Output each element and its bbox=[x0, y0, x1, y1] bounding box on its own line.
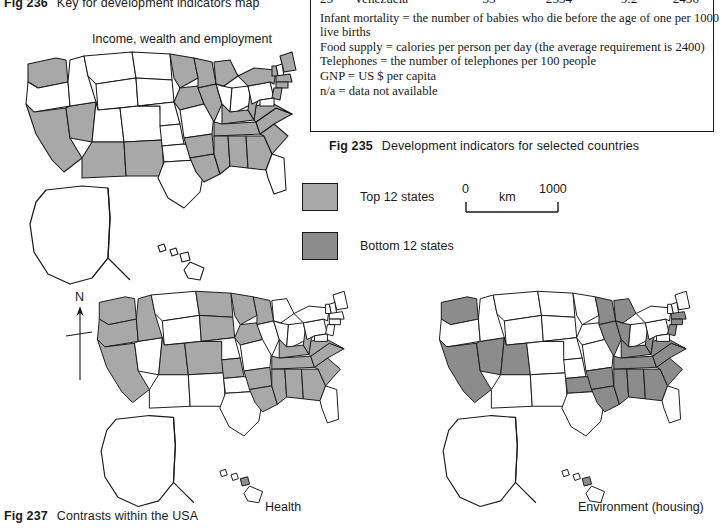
cell-telephones: 9.2 bbox=[598, 0, 660, 8]
state-newmexico bbox=[530, 373, 567, 406]
state-connecticut bbox=[671, 319, 682, 325]
state-hawaii-islands bbox=[562, 469, 605, 502]
state-massachusetts bbox=[671, 312, 686, 319]
fig235-number: Fig 235 bbox=[329, 139, 373, 153]
state-massachusetts bbox=[276, 74, 292, 82]
state-massachusetts bbox=[329, 312, 344, 319]
state-kansas bbox=[564, 358, 586, 378]
state-maryland bbox=[260, 98, 274, 106]
state-wisconsin bbox=[194, 58, 216, 88]
state-alaska-panhandle bbox=[515, 417, 535, 502]
footnote-line: n/a = data not available bbox=[320, 84, 703, 99]
state-alabama bbox=[627, 369, 646, 399]
state-southdakota bbox=[541, 315, 576, 341]
table-footnotes: Infant mortality = the number of babies … bbox=[311, 8, 713, 99]
map-scale-bar: 0 1000 km bbox=[462, 182, 582, 216]
state-nevada bbox=[135, 338, 163, 375]
table-row: 25Venezuela3325349.22450 bbox=[311, 0, 713, 8]
state-maryland bbox=[314, 334, 327, 341]
state-southdakota bbox=[199, 315, 234, 341]
state-tennessee bbox=[272, 356, 315, 369]
fig237-caption: Fig 237Contrasts within the USA bbox=[4, 509, 198, 523]
state-oregon bbox=[26, 82, 70, 112]
footnote-line: Telephones = the number of telephones pe… bbox=[320, 54, 703, 69]
state-northdakota bbox=[538, 291, 575, 317]
state-tennessee bbox=[614, 356, 657, 369]
fig235-caption: Fig 235Development indicators for select… bbox=[329, 139, 639, 153]
state-hawaii-islands bbox=[220, 469, 263, 502]
state-kansas bbox=[222, 358, 244, 378]
choropleth-map-income bbox=[8, 42, 304, 290]
state-tennessee bbox=[214, 122, 260, 136]
state-michigan bbox=[214, 60, 238, 86]
state-southdakota bbox=[136, 78, 174, 106]
cell-rank: 25 bbox=[311, 0, 354, 8]
fig236-number: Fig 236 bbox=[4, 0, 48, 10]
state-hawaii-islands bbox=[158, 244, 204, 280]
state-michigan bbox=[272, 299, 294, 323]
footnote-line: Food supply = calories per person per da… bbox=[320, 40, 703, 55]
legend-swatch-top bbox=[302, 183, 338, 211]
map-income-svg bbox=[8, 42, 304, 290]
footnote-line: live births bbox=[320, 25, 703, 40]
footnote-line: GNP = US $ per capita bbox=[320, 69, 703, 84]
choropleth-map-environment bbox=[404, 282, 716, 512]
scale-min-label: 0 bbox=[462, 182, 469, 196]
state-alabama bbox=[285, 369, 304, 399]
legend-label-top: Top 12 states bbox=[360, 190, 434, 204]
fig236-caption-text: Key for development indicators map bbox=[57, 0, 260, 10]
state-alaska-outline bbox=[443, 416, 517, 507]
state-northdakota bbox=[132, 52, 172, 80]
state-alaska-panhandle bbox=[173, 417, 193, 502]
state-nevada bbox=[477, 338, 505, 375]
cell-food-supply: 2534 bbox=[520, 0, 598, 8]
state-alabama bbox=[228, 136, 248, 168]
fig236-caption: Fig 236Key for development indicators ma… bbox=[4, 0, 260, 10]
legend-label-bottom: Bottom 12 states bbox=[360, 239, 454, 253]
map-environment-svg bbox=[404, 282, 716, 512]
state-nevada bbox=[66, 102, 96, 142]
state-arizona bbox=[491, 375, 532, 408]
state-colorado bbox=[527, 341, 566, 374]
state-newmexico bbox=[124, 140, 164, 176]
footnote-line: Infant mortality = the number of babies … bbox=[320, 11, 703, 26]
state-arizona bbox=[149, 375, 190, 408]
state-arizona bbox=[82, 142, 126, 178]
development-indicators-table: 22Spain9349439.69150 23UK8325960.014 570… bbox=[311, 0, 713, 8]
state-kansas bbox=[160, 124, 184, 146]
state-newmexico bbox=[188, 373, 225, 406]
fig235-caption-text: Development indicators for selected coun… bbox=[382, 139, 639, 153]
state-colorado bbox=[120, 106, 162, 142]
fig237-number: Fig 237 bbox=[4, 509, 48, 523]
cell-gnp: 2450 bbox=[660, 0, 713, 8]
state-michigan bbox=[614, 299, 636, 323]
cell-infant-mortality: 33 bbox=[458, 0, 520, 8]
fig237-caption-text: Contrasts within the USA bbox=[57, 509, 198, 523]
legend-item-bottom-12-states: Bottom 12 states bbox=[302, 232, 454, 260]
legend-swatch-bottom bbox=[302, 232, 338, 260]
map-health-svg bbox=[62, 282, 374, 512]
legend-item-top-12-states: Top 12 states bbox=[302, 183, 434, 211]
state-colorado bbox=[185, 341, 224, 374]
cell-country: Venezuela bbox=[354, 0, 458, 8]
development-indicators-table-panel: 22Spain9349439.69150 23UK8325960.014 570… bbox=[310, 0, 714, 132]
state-wisconsin bbox=[253, 297, 273, 325]
table-body: 22Spain9349439.69150 23UK8325960.014 570… bbox=[311, 0, 713, 8]
state-oregon bbox=[97, 319, 138, 347]
state-connecticut bbox=[329, 319, 340, 325]
state-alaska-outline bbox=[101, 416, 175, 507]
scale-unit-label: km bbox=[499, 190, 516, 204]
state-connecticut bbox=[276, 82, 288, 88]
state-maryland bbox=[656, 334, 669, 341]
state-alaska-outline bbox=[30, 186, 110, 284]
choropleth-map-health bbox=[62, 282, 374, 512]
state-wyoming bbox=[162, 315, 201, 345]
state-oregon bbox=[439, 319, 480, 347]
state-wyoming bbox=[96, 78, 138, 110]
state-alaska-panhandle bbox=[108, 188, 130, 280]
state-wyoming bbox=[504, 315, 543, 345]
state-northdakota bbox=[196, 291, 233, 317]
state-wisconsin bbox=[595, 297, 615, 325]
scale-max-label: 1000 bbox=[539, 182, 567, 196]
